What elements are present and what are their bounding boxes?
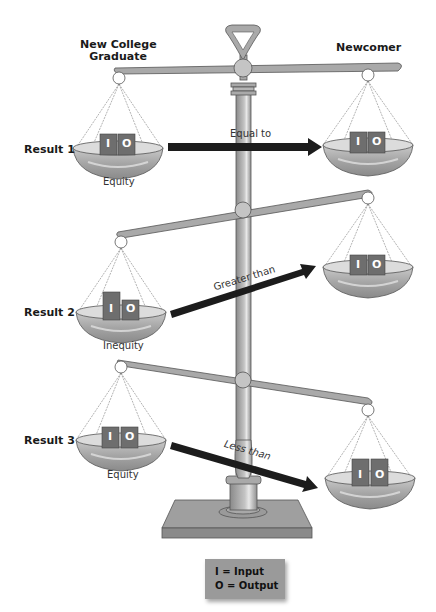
result-1-caption: Equity [103,176,135,187]
output-letter: O [372,135,381,148]
input-letter: I [108,430,112,443]
legend-output: O = Output [215,579,285,593]
input-letter: I [358,468,362,481]
result-3-label: Result 3 [24,434,75,447]
result-2-label: Result 2 [24,306,75,319]
result-2-caption: Inequity [103,340,144,351]
pan-r3-left [76,373,166,471]
pan-r2-left [76,248,166,343]
legend-input: I = Input [215,565,285,579]
input-letter: I [356,258,360,271]
header-newcomer: Newcomer [336,42,401,54]
pan-r3-right [325,416,415,509]
output-letter: O [125,430,134,443]
input-letter: I [109,302,113,315]
output-letter: O [375,468,384,481]
pan-r1-left [73,84,163,179]
legend-box: I = Input O = Output [205,559,285,599]
result-3-caption: Equity [107,469,139,480]
output-letter: O [126,302,135,315]
header-new-college-graduate: New College Graduate [80,39,156,63]
output-letter: O [372,258,381,271]
pan-r2-right [323,204,413,298]
input-letter: I [356,135,360,148]
equity-scale-diagram: I O I O I O I O I O I O New College Grad… [0,0,436,612]
result-1-label: Result 1 [24,143,75,156]
input-letter: I [106,137,110,150]
beam-result-1 [113,59,402,84]
relation-equal-to: Equal to [230,128,271,139]
pan-r1-right [323,81,413,176]
output-letter: O [122,137,131,150]
